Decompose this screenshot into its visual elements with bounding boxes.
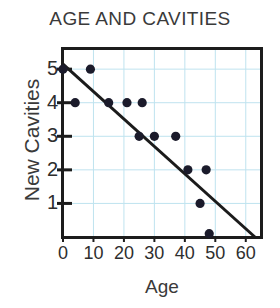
trend-line [63, 64, 255, 237]
scatter-plot [0, 0, 280, 308]
data-point [58, 65, 67, 74]
data-points [58, 65, 213, 239]
data-point [86, 65, 95, 74]
data-point [202, 165, 211, 174]
data-point [171, 132, 180, 141]
chart-figure: AGE AND CAVITIES New Cavities Age 12345 … [0, 0, 280, 308]
data-point [195, 199, 204, 208]
data-point [71, 98, 80, 107]
data-point [150, 132, 159, 141]
data-point [205, 229, 214, 238]
data-point [104, 98, 113, 107]
gridlines [63, 49, 261, 237]
data-point [135, 132, 144, 141]
data-point [138, 98, 147, 107]
trend-line-segment [63, 64, 255, 237]
data-point [122, 98, 131, 107]
plot-frame [63, 49, 262, 238]
data-point [183, 165, 192, 174]
axis-ticks [57, 69, 246, 242]
